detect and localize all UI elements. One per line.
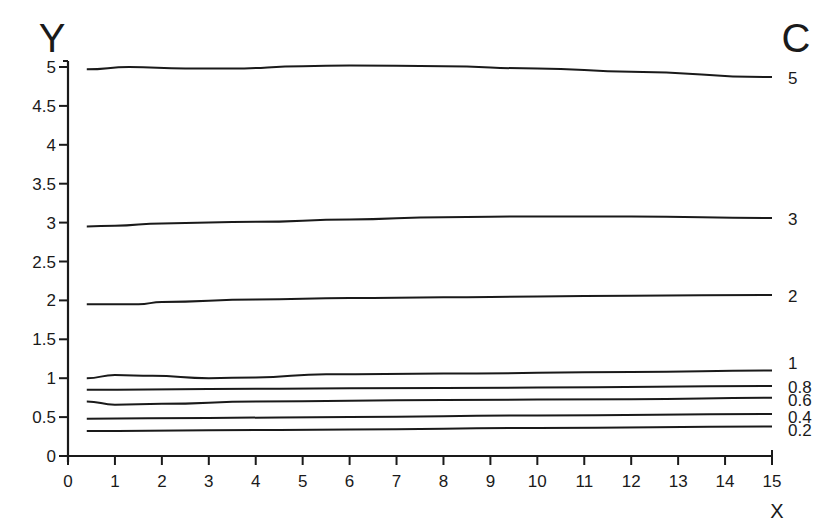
contour-chart: 00.511.522.533.544.550123456789101112131… [0, 0, 830, 531]
curve-c-0-8 [87, 386, 772, 390]
x-tick-label: 11 [575, 472, 593, 491]
curve-label: 5 [788, 69, 797, 88]
y-tick-label: 0 [47, 447, 56, 466]
x-tick-label: 9 [486, 472, 495, 491]
curve-label: 2 [788, 287, 797, 306]
y-tick-label: 3.5 [32, 175, 56, 194]
curve-c-1 [87, 370, 772, 378]
x-tick-label: 13 [669, 472, 688, 491]
curve-labels: 53210.80.60.40.2 [788, 69, 812, 440]
y-tick-label: 1.5 [32, 330, 56, 349]
y-tick-label: 2.5 [32, 253, 56, 272]
y-axis-title: Y [39, 16, 66, 60]
curve-c-0-6 [87, 398, 772, 405]
curves [87, 65, 772, 431]
x-tick-label: 15 [763, 472, 782, 491]
x-tick-label: 3 [204, 472, 213, 491]
y-tick-label: 0.5 [32, 408, 56, 427]
y-tick-label: 4.5 [32, 97, 56, 116]
x-tick-label: 2 [157, 472, 166, 491]
x-tick-label: 5 [298, 472, 307, 491]
y-tick-label: 4 [47, 136, 56, 155]
x-tick-label: 12 [622, 472, 641, 491]
x-tick-label: 0 [63, 472, 72, 491]
x-tick-label: 6 [345, 472, 354, 491]
curve-label: 3 [788, 210, 797, 229]
curve-c-5 [87, 65, 772, 77]
curve-label: 0.6 [788, 391, 812, 410]
x-tick-label: 14 [716, 472, 735, 491]
curve-label: 1 [788, 354, 797, 373]
y-tick-label: 1 [47, 369, 56, 388]
curve-c-0-2 [87, 426, 772, 431]
legend-title: C [782, 16, 811, 60]
curve-c-2 [87, 295, 772, 304]
x-tick-label: 8 [439, 472, 448, 491]
x-axis-title: X [770, 500, 783, 522]
curve-c-0-4 [87, 414, 772, 419]
x-tick-label: 10 [528, 472, 547, 491]
y-tick-label: 3 [47, 214, 56, 233]
y-tick-label: 2 [47, 291, 56, 310]
y-tick-label: 5 [47, 58, 56, 77]
x-tick-label: 4 [251, 472, 260, 491]
curve-label: 0.2 [788, 421, 812, 440]
x-tick-label: 7 [392, 472, 401, 491]
curve-c-3 [87, 216, 772, 226]
x-tick-label: 1 [110, 472, 119, 491]
